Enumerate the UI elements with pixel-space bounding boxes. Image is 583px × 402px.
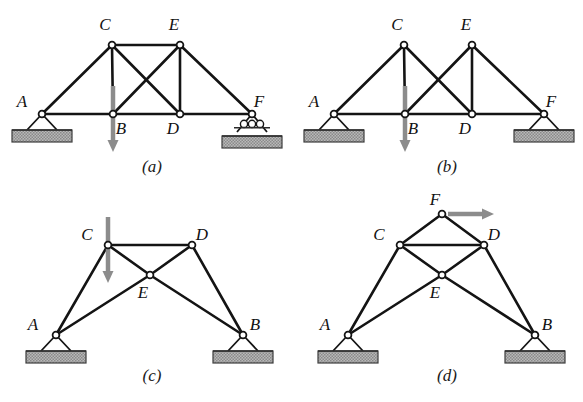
ground-block-A [304,130,364,142]
ground-block-B [213,351,273,363]
node-label-D: D [195,225,209,244]
roller-wheel-2 [248,120,255,127]
ground-block-F [514,130,574,142]
panel-caption-d: (d) [437,366,457,385]
joint-D [481,242,488,249]
node-label-F: F [545,92,557,111]
node-label-F: F [253,92,265,111]
node-label-A: A [319,315,331,334]
node-label-E: E [460,15,472,34]
joint-B [240,332,247,339]
roller-wheel-1 [240,120,247,127]
joint-A [39,111,46,118]
joint-F [439,211,446,218]
ground-block-A [318,351,378,363]
node-label-C: C [99,15,111,34]
joint-B [110,111,117,118]
joint-F [249,111,256,118]
roller-wheel-3 [256,120,263,127]
joint-B [532,332,539,339]
node-label-E: E [168,15,180,34]
joint-A [345,332,352,339]
panel-caption-a: (a) [142,157,162,176]
node-label-D: D [458,119,472,138]
node-label-B: B [408,119,419,138]
node-label-B: B [250,315,261,334]
ground-block-B [505,351,565,363]
joint-E [147,272,154,279]
ground-block-A [12,130,72,142]
joint-C [397,242,404,249]
joint-E [439,272,446,279]
panel-caption-b: (b) [437,157,457,176]
joint-E [177,42,184,49]
ground-block-A [26,351,86,363]
node-label-C: C [81,225,93,244]
joint-D [469,111,476,118]
ground-block-F [222,136,282,148]
node-label-C: C [373,225,385,244]
node-label-C: C [391,15,403,34]
node-label-D: D [487,225,501,244]
node-label-B: B [542,315,553,334]
joint-E [469,42,476,49]
node-label-A: A [16,92,28,111]
node-label-E: E [429,283,441,302]
joint-C [109,42,116,49]
joint-C [401,42,408,49]
joint-C [105,242,112,249]
truss-figure: ACEBDF(a)ACEBDF(b)ABCDE(c)ABCDEF(d) [0,0,583,402]
joint-D [177,111,184,118]
joint-D [189,242,196,249]
node-label-F: F [429,190,441,209]
joint-B [402,111,409,118]
joint-A [331,111,338,118]
node-label-A: A [308,92,320,111]
node-label-B: B [116,119,127,138]
panel-caption-c: (c) [143,366,162,385]
node-label-D: D [166,119,180,138]
joint-A [53,332,60,339]
node-label-E: E [137,283,149,302]
figure-background [0,0,583,402]
node-label-A: A [27,315,39,334]
joint-F [541,111,548,118]
